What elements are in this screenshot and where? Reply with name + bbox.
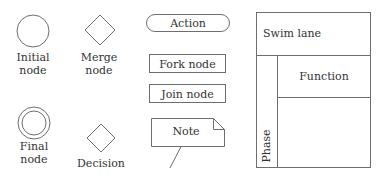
fork-node: Fork node [150, 55, 226, 73]
merge-node-diamond-icon [85, 15, 115, 45]
note-label: Note [172, 125, 199, 138]
swimlane: Swim lane Function Phase [257, 13, 371, 168]
join-node: Join node [150, 85, 226, 103]
phase-label: Phase [260, 129, 273, 162]
decision-label: Decision [77, 157, 125, 170]
fork-node-label: Fork node [159, 58, 215, 71]
decision-node: Decision [77, 124, 125, 170]
function-label: Function [299, 70, 349, 83]
decision-diamond-icon [87, 124, 115, 152]
initial-node: Initial node [17, 15, 50, 77]
final-node: Final node [18, 107, 50, 166]
initial-node-circle-icon [17, 15, 49, 47]
initial-node-label-line2: node [19, 64, 46, 77]
swimlane-title: Swim lane [263, 27, 321, 40]
final-node-label-line2: node [20, 153, 47, 166]
activity-diagram-notation: Initial node Merge node Final node Decis… [0, 0, 386, 177]
merge-node-label-line2: node [85, 64, 112, 77]
note-anchor-line [170, 147, 181, 169]
final-node-outer-circle-icon [18, 107, 50, 139]
merge-node: Merge node [81, 15, 118, 77]
join-node-label: Join node [160, 88, 213, 101]
merge-node-label-line1: Merge [81, 51, 118, 64]
final-node-inner-circle-icon [22, 111, 46, 135]
initial-node-label-line1: Initial [17, 51, 50, 64]
note-node: Note [152, 119, 225, 169]
action-label: Action [169, 17, 206, 30]
action-node: Action [147, 15, 230, 32]
final-node-label-line1: Final [20, 140, 49, 153]
